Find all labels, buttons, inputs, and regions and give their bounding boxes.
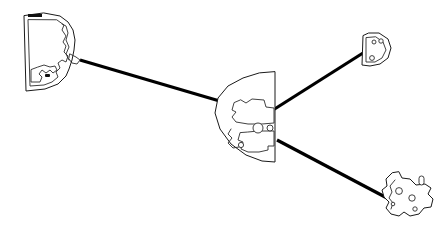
center-circle-small bbox=[267, 125, 273, 131]
diagram-canvas: Node-link line drawing Four irregular ou… bbox=[0, 0, 446, 232]
top-right-circle-a bbox=[372, 40, 376, 44]
bottom-right-circle-a bbox=[396, 188, 403, 195]
bottom-right-circle-d bbox=[413, 207, 417, 211]
left-inner-dot bbox=[45, 74, 50, 77]
center-circle-large bbox=[253, 123, 263, 133]
top-right-circle-c bbox=[370, 56, 375, 61]
bottom-right-circle-c bbox=[391, 202, 395, 206]
bottom-right-slot bbox=[419, 176, 424, 185]
node-link-diagram: Node-link line drawing Four irregular ou… bbox=[0, 0, 446, 232]
bottom-right-circle-b bbox=[409, 195, 415, 201]
left-top-bar bbox=[28, 14, 42, 17]
center-circle-tiny bbox=[238, 142, 243, 147]
top-right-circle-b bbox=[379, 39, 383, 43]
